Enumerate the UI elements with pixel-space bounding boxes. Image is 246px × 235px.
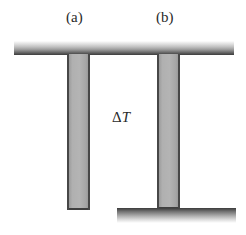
column-a-base-edge	[69, 208, 88, 210]
temperature-symbol: T	[122, 109, 130, 125]
delta-symbol: Δ	[112, 109, 122, 125]
column-a	[67, 54, 90, 210]
delta-t-annotation: ΔT	[112, 110, 130, 125]
column-a-face	[69, 54, 88, 210]
column-b-face	[159, 54, 178, 209]
column-b	[157, 54, 180, 209]
bottom-support-bar	[117, 208, 236, 223]
top-support-bar	[14, 41, 234, 55]
thermal-column-diagram: (a) (b) ΔT	[0, 0, 246, 235]
panel-label-a: (a)	[66, 10, 83, 25]
panel-label-b: (b)	[156, 10, 174, 25]
